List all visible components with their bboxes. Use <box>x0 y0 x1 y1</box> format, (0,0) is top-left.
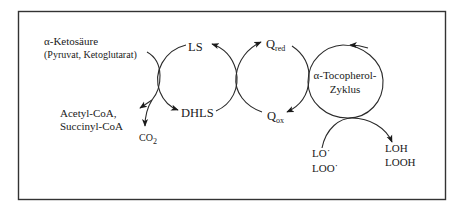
tocopherol-label: α-Tocopherol- <box>313 69 376 81</box>
succinyl-coa-label: Succinyl-CoA <box>60 120 123 132</box>
loh-label: LOH <box>385 142 408 154</box>
tocopherol-cycle-label: Zyklus <box>330 83 361 95</box>
lo-radical-label: LO˙ <box>312 147 330 159</box>
dhls-label: DHLS <box>181 106 214 120</box>
acetyl-coa-label: Acetyl-CoA, <box>60 107 117 119</box>
keto-acid-examples-label: (Pyruvat, Ketoglutarat) <box>44 49 137 61</box>
radical-arc <box>322 118 392 148</box>
keto-acid-arc <box>140 52 160 126</box>
keto-acid-label: α-Ketosäure <box>44 35 98 47</box>
looh-label: LOOH <box>385 156 416 168</box>
tocopherol-cycle <box>308 45 383 118</box>
antioxidant-network-diagram: α-Ketosäure (Pyruvat, Ketoglutarat) LS D… <box>0 0 464 212</box>
q-red-label: Qred <box>266 37 285 53</box>
ls-label: LS <box>188 40 203 54</box>
loo-radical-label: LOO˙ <box>312 162 338 174</box>
co2-label: CO2 <box>139 132 157 146</box>
lipoate-cycle <box>158 44 237 111</box>
q-ox-label: Qox <box>267 109 284 125</box>
quinone-cycle <box>236 42 309 112</box>
